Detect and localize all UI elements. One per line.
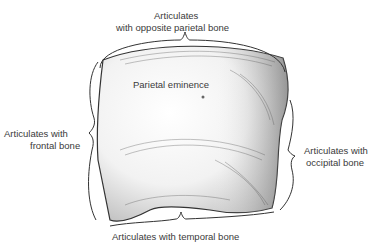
label-top-line1: Articulates bbox=[154, 10, 198, 21]
label-top-line2: with opposite parietal bone bbox=[116, 22, 229, 33]
label-right-line2: occipital bone bbox=[306, 157, 364, 168]
label-right-line1: Articulates with bbox=[304, 145, 368, 156]
label-left-line1: Articulates with bbox=[4, 128, 68, 139]
label-left-line2: frontal bone bbox=[30, 140, 80, 151]
left-brace bbox=[89, 62, 98, 220]
label-bottom: Articulates with temporal bone bbox=[112, 231, 239, 242]
bone-illustration bbox=[0, 0, 385, 249]
label-eminence: Parietal eminence bbox=[133, 79, 209, 90]
parietal-bone-diagram: Articulates with opposite parietal bone … bbox=[0, 0, 385, 249]
